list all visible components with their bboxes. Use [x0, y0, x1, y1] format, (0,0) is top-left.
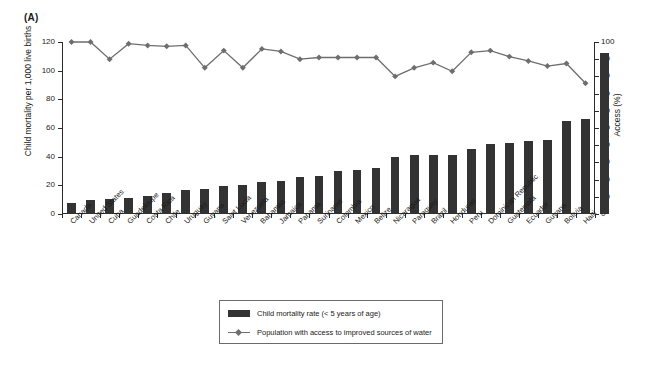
- line-marker: [316, 55, 322, 61]
- line-marker: [487, 48, 493, 54]
- legend-item-water-access: Population with access to improved sourc…: [228, 323, 442, 342]
- y-tick-label-left-80: 80: [0, 95, 55, 103]
- y-tick-label-left-60: 60: [0, 124, 55, 132]
- y-tick-label-left-20: 20: [0, 181, 55, 189]
- y-tick-right-20: [595, 180, 599, 181]
- line-marker: [525, 58, 531, 64]
- water-access-line: [72, 42, 586, 83]
- y-tick-label-left-120: 120: [0, 38, 55, 46]
- line-marker: [164, 43, 170, 49]
- line-marker: [506, 54, 512, 60]
- y-tick-right-100: [595, 42, 599, 43]
- x-tick: [62, 214, 63, 218]
- bar: [600, 53, 609, 214]
- line-marker: [544, 63, 550, 69]
- y-tick-right-50: [595, 128, 599, 129]
- line-marker: [297, 56, 303, 62]
- line-marker: [145, 42, 151, 48]
- y-tick-label-right-100: 100: [601, 38, 614, 46]
- chart-legend: Child mortality rate (< 5 years of age) …: [219, 300, 443, 344]
- line-marker: [430, 60, 436, 66]
- line-marker: [278, 48, 284, 54]
- bar-swatch-icon: [228, 310, 250, 317]
- line-marker: [69, 39, 75, 45]
- line-marker: [354, 55, 360, 61]
- y-tick-right-10: [595, 197, 599, 198]
- line-series: [62, 42, 595, 214]
- y-tick-right-80: [595, 76, 599, 77]
- y-tick-right-60: [595, 111, 599, 112]
- y-tick-label-left-40: 40: [0, 153, 55, 161]
- legend-item-child-mortality: Child mortality rate (< 5 years of age): [228, 304, 442, 323]
- y-tick-right-30: [595, 162, 599, 163]
- legend-label-child-mortality: Child mortality rate (< 5 years of age): [257, 309, 381, 318]
- line-marker: [411, 65, 417, 71]
- y-tick-right-90: [595, 59, 599, 60]
- line-marker: [335, 55, 341, 61]
- y-tick-label-left-100: 100: [0, 67, 55, 75]
- y-tick-right-40: [595, 145, 599, 146]
- line-diamond-swatch-icon: [228, 329, 250, 336]
- y-axis-right-title: Access (%): [612, 75, 622, 155]
- y-tick-label-left-0: 0: [0, 210, 55, 218]
- y-tick-right-70: [595, 94, 599, 95]
- y-axis-left-title: Child mortality per 1,000 live births: [23, 11, 33, 171]
- legend-label-water-access: Population with access to improved sourc…: [257, 328, 432, 337]
